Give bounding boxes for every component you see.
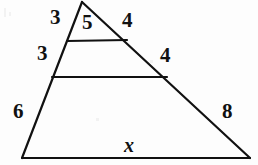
label-top-segment-5: 5 [82, 12, 93, 33]
upper-parallel-segment-line [67, 40, 127, 41]
label-right-middle-4: 4 [160, 45, 171, 66]
label-right-bottom-8: 8 [222, 101, 233, 122]
label-left-bottom-6: 6 [13, 101, 24, 122]
label-base-x: x [124, 135, 134, 155]
geometry-figure: 3 5 4 3 4 6 8 x [0, 0, 258, 165]
right-side-line [82, 2, 250, 158]
label-left-middle-3: 3 [37, 43, 48, 64]
label-left-top-3: 3 [50, 7, 61, 28]
label-right-top-4: 4 [122, 10, 133, 31]
